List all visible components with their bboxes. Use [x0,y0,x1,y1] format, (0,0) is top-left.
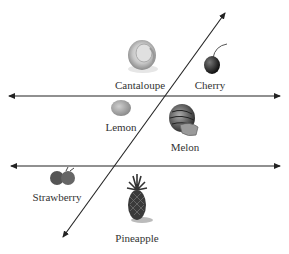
strawberry-icon [50,167,75,185]
pineapple-icon [127,174,153,223]
label-strawberry: Strawberry [33,192,82,203]
label-melon: Melon [171,142,200,153]
label-cantaloupe: Cantaloupe [115,80,165,91]
lemon-icon [111,100,131,116]
diagram-canvas [0,0,289,254]
label-pineapple: Pineapple [115,233,158,244]
label-cherry: Cherry [195,80,226,91]
cantaloupe-icon [128,40,158,73]
cherry-icon [204,44,227,74]
melon-icon [169,104,198,136]
label-lemon: Lemon [105,122,136,133]
